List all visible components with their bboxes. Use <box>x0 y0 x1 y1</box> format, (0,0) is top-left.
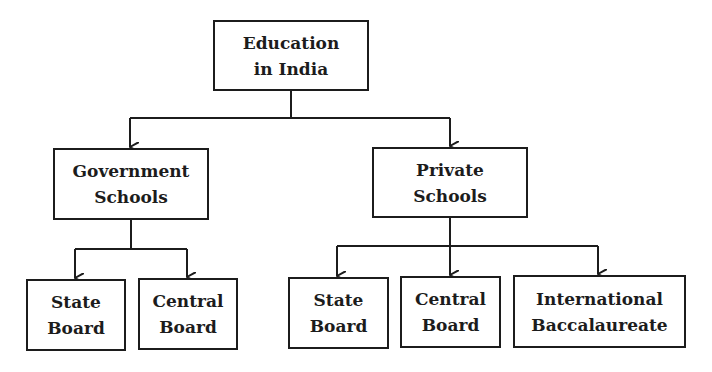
node-label-line: Central <box>415 286 486 312</box>
node-label-line: Central <box>153 288 224 314</box>
node-label-line: Schools <box>94 184 168 210</box>
node-label-line: Board <box>310 313 368 339</box>
node-label-line: Baccalaureate <box>531 312 667 338</box>
node-education-in-india: Education in India <box>213 20 369 91</box>
node-label-line: International <box>536 286 663 312</box>
node-label-line: Education <box>243 30 340 56</box>
node-private-schools: Private Schools <box>372 147 528 218</box>
node-label-line: Board <box>47 315 105 341</box>
node-private-state-board: State Board <box>288 277 389 349</box>
node-government-schools: Government Schools <box>53 148 209 220</box>
node-government-central-board: Central Board <box>138 278 238 350</box>
node-label-line: in India <box>254 56 328 82</box>
node-label-line: State <box>51 289 101 315</box>
node-label-line: Private <box>416 157 484 183</box>
node-label-line: State <box>314 287 364 313</box>
node-label-line: Government <box>73 158 190 184</box>
node-government-state-board: State Board <box>26 279 126 351</box>
node-private-international-baccalaureate: International Baccalaureate <box>513 275 686 348</box>
node-label-line: Board <box>159 314 217 340</box>
node-label-line: Schools <box>413 183 487 209</box>
node-label-line: Board <box>422 312 480 338</box>
node-private-central-board: Central Board <box>400 276 501 348</box>
